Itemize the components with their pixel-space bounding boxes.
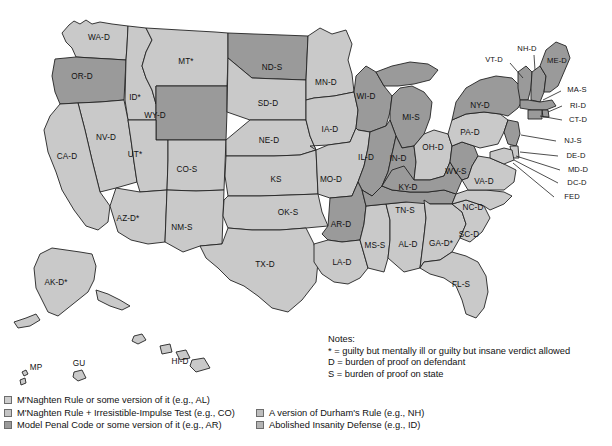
state-label-ar-d: AR-D [331, 220, 351, 229]
state-label-id: ID* [129, 93, 141, 102]
callout-label-me-d: ME-D [547, 56, 567, 65]
state-shape-ak-pan [96, 290, 130, 310]
callout-label-fed: FED [564, 192, 580, 201]
state-label-ks: KS [270, 175, 282, 184]
state-shape-nm [165, 190, 224, 252]
state-label-wi-d: WI-D [356, 92, 375, 101]
state-label-va-d: VA-D [474, 177, 493, 186]
state-label-mo-d: MO-D [320, 175, 342, 184]
legend-swatch-durham [256, 409, 264, 417]
state-shape-hi-1 [132, 334, 146, 344]
state-label-hi-d: HI-D [171, 357, 188, 366]
territory-shape-mp-2 [20, 378, 26, 385]
legend-item-model-penal-code: Model Penal Code or some version of it (… [4, 419, 235, 432]
state-shape-nj [504, 120, 520, 146]
state-shape-hi-2 [160, 344, 172, 354]
state-label-wv-s: WV-S [445, 167, 467, 176]
notes-line-d: D = burden of proof on defendant [328, 357, 570, 369]
legend-swatch-abolished [256, 421, 264, 429]
legend-item-mnaghten-irresistible: M'Naghten Rule + Irresistible-Impulse Te… [4, 407, 235, 420]
legend-label-mnaghten-irresistible: M'Naghten Rule + Irresistible-Impulse Te… [17, 407, 235, 420]
legend-label-durham: A version of Durham's Rule (e.g., NH) [269, 407, 424, 420]
state-shape-ak-al [14, 314, 40, 328]
legend-item-durham: A version of Durham's Rule (e.g., NH) [256, 407, 424, 420]
state-label-ok-s: OK-S [278, 208, 299, 217]
state-label-nc-d: NC-D [463, 203, 484, 212]
state-label-nd-s: ND-S [262, 63, 283, 72]
state-label-ut: UT* [128, 150, 143, 159]
legend-column-right: A version of Durham's Rule (e.g., NH) Ab… [256, 407, 424, 432]
state-label-la-d: LA-D [332, 258, 351, 267]
state-shape-ct [528, 110, 542, 119]
state-shape-ok [223, 194, 328, 230]
notes-block: Notes: * = guilty but mentally ill or gu… [328, 334, 570, 380]
callout-label-md-d: MD-D [568, 165, 589, 174]
state-label-al-d: AL-D [398, 240, 417, 249]
state-label-oh-d: OH-D [422, 143, 443, 152]
legend-swatch-mnaghten-irresistible [4, 409, 12, 417]
state-shape-mn [306, 28, 354, 100]
state-label-il-d: IL-D [358, 153, 374, 162]
state-label-mi-s: MI-S [402, 113, 420, 122]
state-shape-mi-up [376, 62, 438, 86]
legend-item-mnaghten: M'Naghten Rule or some version of it (e.… [4, 394, 235, 407]
state-shape-ks [225, 150, 318, 196]
legend-label-model-penal-code: Model Penal Code or some version of it (… [17, 419, 222, 432]
state-label-ia-d: IA-D [322, 125, 339, 134]
state-label-ga-d: GA-D* [429, 239, 454, 248]
callout-label-dc-d: DC-D [567, 178, 587, 187]
state-shape-vt [518, 66, 532, 100]
state-label-sd-d: SD-D [258, 99, 278, 108]
notes-title: Notes: [328, 334, 570, 346]
state-shape-hi-4 [190, 358, 210, 372]
state-label-tn-s: TN-S [395, 206, 415, 215]
callout-label-ri-d: RI-D [570, 101, 586, 110]
state-label-or-d: OR-D [71, 72, 92, 81]
state-shape-ma [520, 100, 556, 110]
callout-label-de-d: DE-D [567, 151, 586, 160]
legend-column-left: M'Naghten Rule or some version of it (e.… [4, 394, 235, 432]
callout-label-ma-s: MA-S [567, 85, 586, 94]
legend-item-abolished: Abolished Insanity Defense (e.g., ID) [256, 419, 424, 432]
state-label-nv-d: NV-D [96, 133, 116, 142]
state-label-ms-s: MS-S [365, 241, 386, 250]
state-label-mt: MT* [178, 57, 194, 66]
state-label-mn-d: MN-D [315, 78, 337, 87]
state-label-wy-d: WY-D [144, 111, 165, 120]
territory-shape-mp-1 [22, 370, 28, 376]
state-label-ak-d: AK-D* [44, 278, 68, 287]
state-shape-ri [542, 110, 549, 117]
territory-shape-gu [73, 370, 86, 381]
legend-swatch-mnaghten [4, 396, 12, 404]
legend-label-mnaghten: M'Naghten Rule or some version of it (e.… [17, 394, 210, 407]
state-label-az-d: AZ-D* [117, 214, 141, 223]
state-label-fl-s: FL-S [452, 280, 471, 289]
state-label-ny-d: NY-D [470, 101, 490, 110]
state-label-gu: GU [73, 359, 85, 368]
state-label-tx-d: TX-D [255, 260, 275, 269]
legend-label-abolished: Abolished Insanity Defense (e.g., ID) [269, 419, 420, 432]
state-label-co-s: CO-S [177, 165, 198, 174]
state-shapes [14, 20, 570, 385]
callout-label-vt-d: VT-D [485, 55, 503, 64]
state-label-ca-d: CA-D [57, 152, 77, 161]
state-label-in-d: IN-D [389, 154, 406, 163]
state-shape-wy [156, 86, 227, 140]
state-label-pa-d: PA-D [460, 128, 479, 137]
notes-line-s: S = burden of proof on state [328, 369, 570, 381]
callout-label-nj-s: NJ-S [564, 136, 581, 145]
callout-label-nh-d: NH-D [517, 44, 537, 53]
state-label-ne-d: NE-D [259, 136, 279, 145]
state-label-mp: MP [30, 363, 43, 372]
state-label-nm-s: NM-S [171, 223, 193, 232]
legend-swatch-model-penal-code [4, 421, 12, 429]
state-label-ky-d: KY-D [398, 183, 417, 192]
state-label-wa-d: WA-D [88, 33, 110, 42]
state-shape-me [540, 42, 570, 92]
state-label-sc-d: SC-D [459, 230, 479, 239]
notes-line-asterisk: * = guilty but mentally ill or guilty bu… [328, 346, 570, 358]
callout-label-ct-d: CT-D [569, 115, 588, 124]
